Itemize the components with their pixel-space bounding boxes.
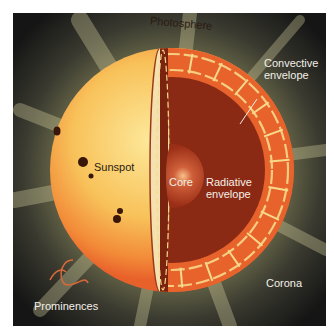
label-corona: Corona xyxy=(266,277,302,289)
label-radiative-envelope-2: envelope xyxy=(206,188,251,200)
sun-diagram: Photosphere Convective envelope Sunspot … xyxy=(13,13,326,326)
label-radiative-envelope-1: Radiative xyxy=(206,176,252,188)
label-convective-envelope-2: envelope xyxy=(264,69,309,81)
label-convective-envelope-1: Convective xyxy=(264,57,318,69)
label-prominences: Prominences xyxy=(34,300,98,312)
label-sunspot: Sunspot xyxy=(94,161,134,173)
label-core: Core xyxy=(169,176,193,188)
